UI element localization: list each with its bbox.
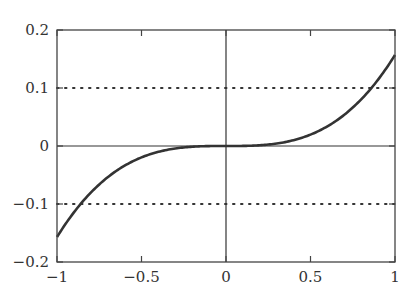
y-tick-label: 0 [39, 137, 49, 155]
x-tick-label: −1 [46, 268, 68, 286]
x-tick-label: 0.5 [299, 268, 323, 286]
y-tick-label: −0.1 [13, 195, 49, 213]
y-tick-label: 0.1 [25, 79, 49, 97]
y-tick-label: 0.2 [25, 21, 49, 39]
x-tick-label: −0.5 [123, 268, 159, 286]
cubic-function-chart: −1−0.500.51 −0.2−0.100.10.2 [0, 0, 410, 307]
x-tick-label: 0 [221, 268, 231, 286]
x-axis-ticks: −1−0.500.51 [46, 30, 400, 286]
y-tick-label: −0.2 [13, 253, 49, 271]
x-tick-label: 1 [390, 268, 400, 286]
